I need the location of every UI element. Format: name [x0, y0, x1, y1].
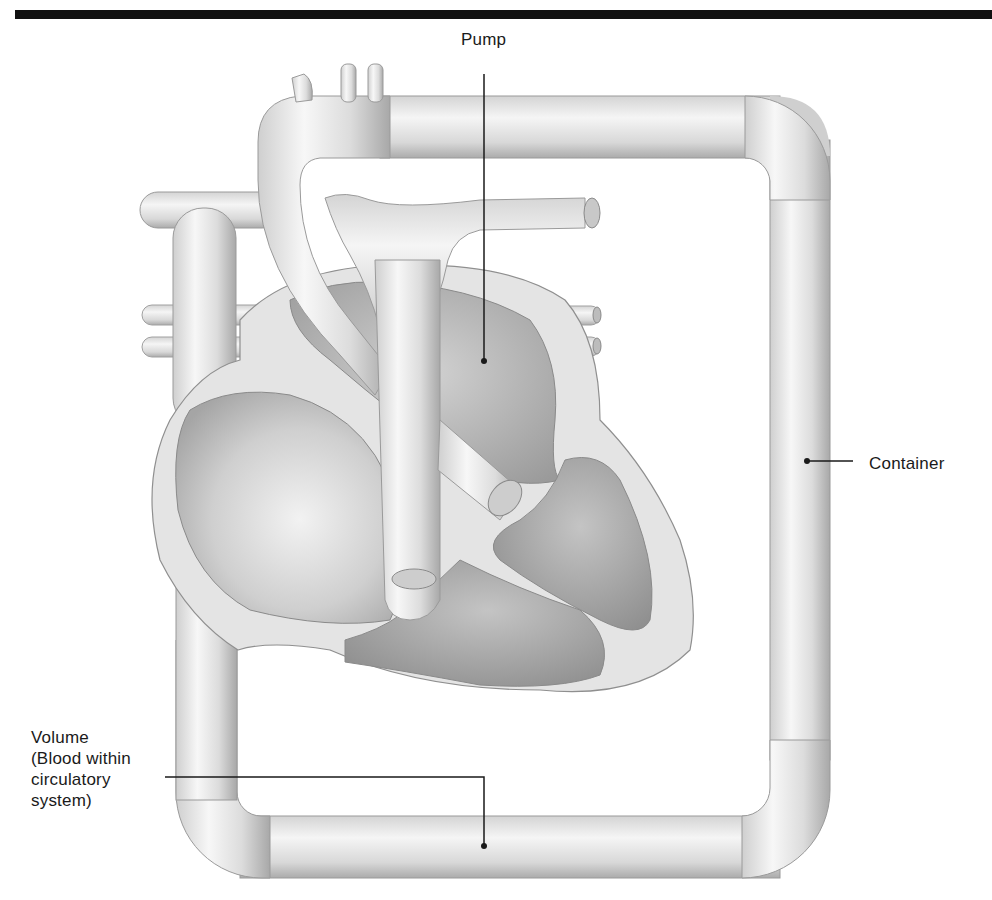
volume-label-line-3: circulatory	[31, 769, 171, 790]
descending-tube	[375, 260, 440, 620]
pulmonary-artery-opening	[584, 198, 600, 228]
volume-label-line-4: system)	[31, 790, 171, 811]
pump-label: Pump	[461, 29, 506, 50]
volume-label-line-2: (Blood within	[31, 748, 171, 769]
volume-label-line-1: Volume	[31, 727, 171, 748]
volume-label: Volume (Blood within circulatory system)	[31, 727, 171, 811]
container-label: Container	[869, 453, 945, 474]
descending-tube-opening	[392, 569, 436, 589]
